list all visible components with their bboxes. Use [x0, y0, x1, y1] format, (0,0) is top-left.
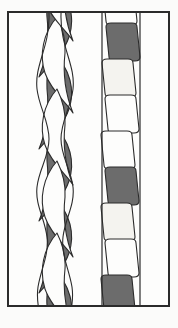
drawing-field [9, 13, 168, 305]
plate-frame [7, 11, 170, 307]
motif-plaited-band [99, 13, 143, 305]
ornament-plate [0, 0, 178, 328]
motif-twisted-cable [33, 13, 77, 305]
